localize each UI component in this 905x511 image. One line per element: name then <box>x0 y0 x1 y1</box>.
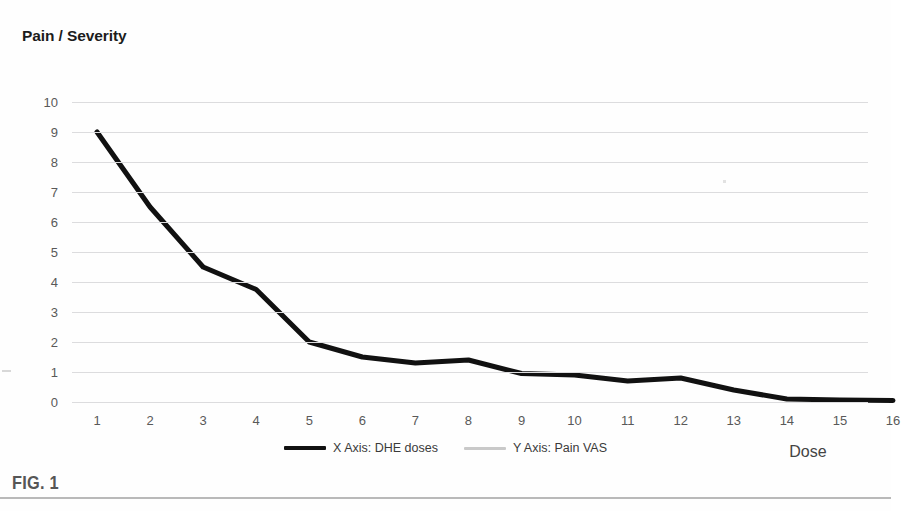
y-tick-label: 10 <box>18 96 58 109</box>
gridline <box>72 342 868 343</box>
chart-title: Pain / Severity <box>22 27 126 45</box>
x-tick-label: 15 <box>820 414 860 428</box>
gridline <box>72 372 868 373</box>
gridline <box>72 132 868 133</box>
x-tick-label: 8 <box>448 414 488 428</box>
gridline <box>72 222 868 223</box>
gridline <box>72 162 868 163</box>
gridline <box>72 282 868 283</box>
x-tick-label: 2 <box>130 414 170 428</box>
y-tick-label: 6 <box>18 216 58 229</box>
x-tick-label: 5 <box>289 414 329 428</box>
x-axis-title: Dose <box>763 443 853 461</box>
y-tick-label: 7 <box>18 186 58 199</box>
x-tick-label: 13 <box>714 414 754 428</box>
y-tick-label: 2 <box>18 336 58 349</box>
x-axis: 12345678910111213141516 <box>72 414 868 436</box>
figure-caption: FIG. 1 <box>12 472 59 494</box>
legend-swatch-icon <box>464 447 506 450</box>
x-tick-label: 1 <box>77 414 117 428</box>
x-tick-label: 14 <box>767 414 807 428</box>
caption-divider <box>0 497 891 499</box>
legend-entry[interactable]: Y Axis: Pain VAS <box>464 441 607 455</box>
gridline <box>72 312 868 313</box>
x-tick-label: 7 <box>395 414 435 428</box>
y-axis: 012345678910 <box>8 102 58 402</box>
gridline <box>72 192 868 193</box>
legend-swatch-icon <box>284 446 326 450</box>
x-tick-label: 10 <box>555 414 595 428</box>
x-tick-label: 12 <box>661 414 701 428</box>
legend-label: Y Axis: Pain VAS <box>513 441 607 455</box>
plot-area <box>72 102 868 402</box>
x-tick-label: 11 <box>608 414 648 428</box>
x-tick-label: 9 <box>502 414 542 428</box>
x-tick-label: 4 <box>236 414 276 428</box>
legend-label: X Axis: DHE doses <box>333 441 438 455</box>
y-tick-label: 5 <box>18 246 58 259</box>
y-tick-label: 9 <box>18 126 58 139</box>
x-tick-label: 16 <box>873 414 905 428</box>
y-tick-label: 3 <box>18 306 58 319</box>
scan-artifact-right <box>723 180 726 183</box>
y-tick-label: 4 <box>18 276 58 289</box>
x-tick-label: 6 <box>342 414 382 428</box>
gridline <box>72 252 868 253</box>
y-tick-label: 1 <box>18 366 58 379</box>
chart-legend: X Axis: DHE dosesY Axis: Pain VAS <box>0 441 891 455</box>
x-tick-label: 3 <box>183 414 223 428</box>
gridline <box>72 102 868 103</box>
series-polyline <box>97 132 893 401</box>
legend-entry[interactable]: X Axis: DHE doses <box>284 441 438 455</box>
y-tick-label: 8 <box>18 156 58 169</box>
y-tick-label: 0 <box>18 396 58 409</box>
gridline <box>72 402 868 403</box>
scan-artifact-left <box>2 370 11 372</box>
